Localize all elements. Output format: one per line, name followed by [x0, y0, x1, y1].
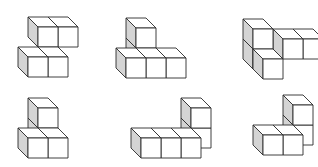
- figure-4: [18, 98, 68, 158]
- cube-front-face: [293, 105, 313, 125]
- cube-front-face: [28, 57, 48, 77]
- cube-front-face: [161, 138, 181, 158]
- figure-6: [253, 95, 313, 155]
- cube-front-face: [263, 135, 283, 155]
- cube-front-face: [48, 57, 68, 77]
- figure-1: [18, 17, 78, 77]
- cube-figures-canvas: [0, 0, 318, 167]
- cube-front-face: [181, 138, 201, 158]
- cube-front-face: [303, 39, 318, 59]
- cube-front-face: [191, 108, 211, 128]
- cube-front-face: [48, 138, 68, 158]
- cube-front-face: [28, 138, 48, 158]
- cube-front-face: [263, 59, 283, 79]
- cube-front-face: [58, 27, 78, 47]
- cube-front-face: [283, 135, 303, 155]
- cube-front-face: [253, 29, 273, 49]
- cube-front-face: [146, 58, 166, 78]
- cube-front-face: [38, 27, 58, 47]
- cube-front-face: [166, 58, 186, 78]
- cube-front-face: [126, 58, 146, 78]
- figure-2: [116, 18, 186, 78]
- figure-5: [131, 98, 211, 158]
- cube-front-face: [283, 39, 303, 59]
- figure-3: [243, 19, 318, 79]
- cube-front-face: [141, 138, 161, 158]
- cube-front-face: [38, 108, 58, 128]
- cube-front-face: [136, 28, 156, 48]
